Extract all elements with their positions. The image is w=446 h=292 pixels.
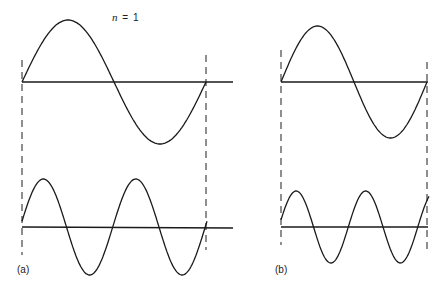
panel-a bbox=[22, 20, 233, 275]
mode-value: = 1 bbox=[119, 12, 140, 23]
panel-a-label: (a) bbox=[17, 264, 29, 275]
panel-b-label: (b) bbox=[275, 264, 287, 275]
panel-b bbox=[281, 26, 429, 263]
standing-wave-diagram bbox=[0, 0, 446, 292]
mode-number-label: n = 1 bbox=[112, 11, 139, 23]
panel-a-bottom-axis bbox=[22, 227, 233, 228]
